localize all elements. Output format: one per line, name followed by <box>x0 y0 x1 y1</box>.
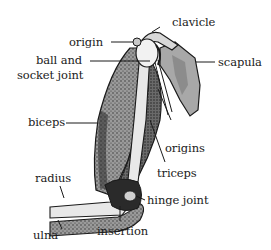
label-ball-and-socket-line1: ball and <box>36 54 82 66</box>
label-scapula: scapula <box>218 56 262 68</box>
label-triceps: triceps <box>157 167 197 179</box>
label-radius: radius <box>35 172 71 184</box>
label-clavicle: clavicle <box>172 16 215 28</box>
label-origins: origins <box>165 142 205 154</box>
label-ball-and-socket-line2: socket joint <box>17 69 83 81</box>
label-insertion: insertion <box>97 225 148 237</box>
label-biceps: biceps <box>28 116 65 128</box>
label-ulna: ulna <box>33 229 58 241</box>
label-hinge-joint: hinge joint <box>147 194 208 206</box>
label-origin: origin <box>69 36 103 48</box>
